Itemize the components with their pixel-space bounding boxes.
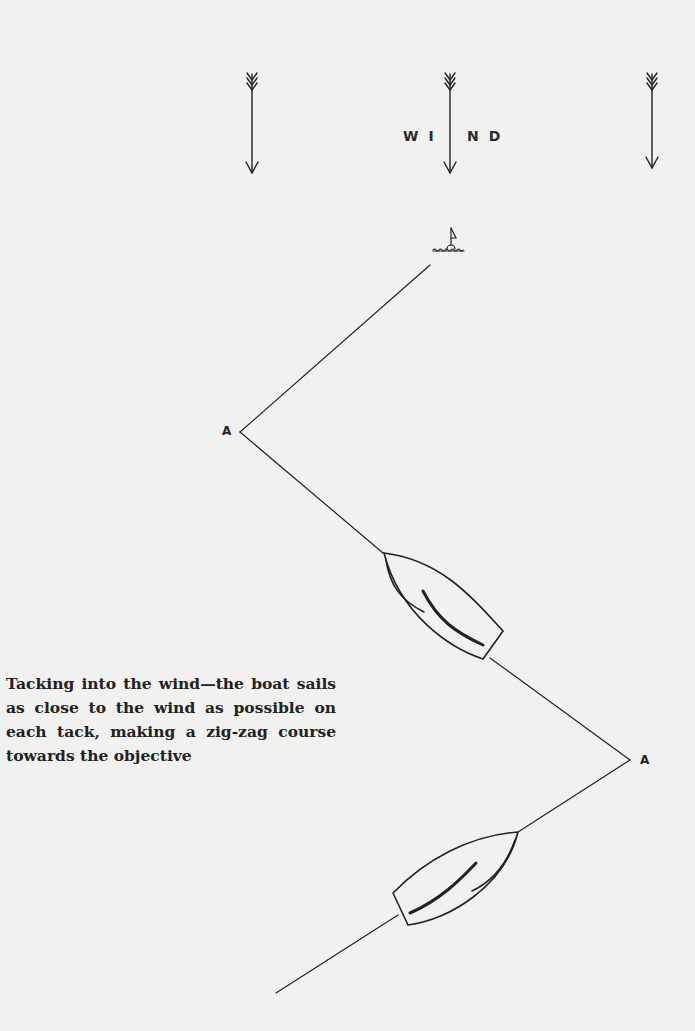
wind-arrow-right-icon — [646, 73, 658, 168]
wind-label-left: WI — [403, 128, 444, 144]
wind-label-right: ND — [467, 128, 510, 144]
course-line — [240, 265, 630, 993]
tacking-diagram — [0, 0, 695, 1031]
buoy-mark-icon — [433, 228, 464, 251]
figure-caption: Tacking into the wind—the boat sails as … — [6, 672, 336, 768]
wind-arrow-center-icon — [444, 73, 456, 173]
boat-lower-icon — [393, 832, 518, 925]
tack-point-label-upper: A — [222, 424, 231, 438]
wind-arrow-left-icon — [246, 73, 258, 173]
boat-upper-icon — [384, 553, 503, 659]
tack-point-label-lower: A — [640, 753, 649, 767]
